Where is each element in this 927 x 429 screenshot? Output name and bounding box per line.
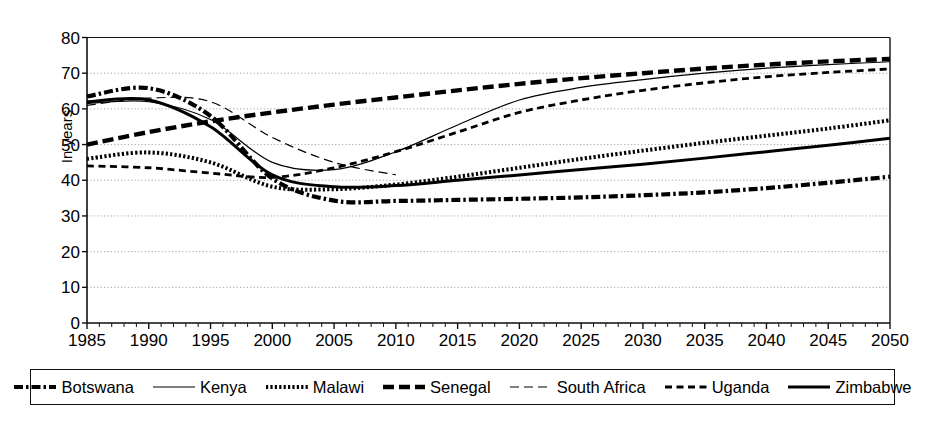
x-tick-label-2005: 2005 <box>315 332 353 349</box>
legend-item-uganda[interactable]: Uganda <box>655 379 779 396</box>
x-tick-label-2035: 2035 <box>686 332 724 349</box>
legend-item-malawi[interactable]: Malawi <box>256 379 373 396</box>
legend-label: Kenya <box>200 379 247 396</box>
x-tick-label-2050: 2050 <box>871 332 909 349</box>
dashed-thick-swatch <box>382 380 426 394</box>
legend-item-senegal[interactable]: Senegal <box>373 379 500 396</box>
x-tick-label-1990: 1990 <box>130 332 168 349</box>
legend-label: Senegal <box>430 379 491 396</box>
dashed-medium-swatch <box>664 380 708 394</box>
x-tick-label-2015: 2015 <box>439 332 477 349</box>
thick-solid-swatch <box>787 380 831 394</box>
x-tick-label-2000: 2000 <box>253 332 291 349</box>
legend-label: South Africa <box>557 379 646 396</box>
x-tick-label-2025: 2025 <box>562 332 600 349</box>
chart-legend: BotswanaKenyaMalawiSenegalSouth AfricaUg… <box>30 369 895 405</box>
x-tick-label-2020: 2020 <box>500 332 538 349</box>
line-chart: In years 01020304050607080 1985199019952… <box>0 0 927 429</box>
x-tick-label-1995: 1995 <box>192 332 230 349</box>
legend-item-kenya[interactable]: Kenya <box>143 379 256 396</box>
legend-item-south-africa[interactable]: South Africa <box>500 379 655 396</box>
legend-label: Uganda <box>712 379 770 396</box>
thin-longdash-swatch <box>509 380 553 394</box>
x-tick-label-2040: 2040 <box>748 332 786 349</box>
legend-label: Botswana <box>61 379 133 396</box>
legend-label: Zimbabwe <box>835 379 911 396</box>
x-tick-label-2010: 2010 <box>377 332 415 349</box>
x-axis-ticks: 1985199019952000200520102015202020252030… <box>0 0 927 429</box>
x-tick-label-2045: 2045 <box>809 332 847 349</box>
x-tick-label-2030: 2030 <box>624 332 662 349</box>
dotted-thick-swatch <box>265 380 309 394</box>
thin-solid-swatch <box>152 380 196 394</box>
dash-dot-thick-swatch <box>13 380 57 394</box>
legend-label: Malawi <box>313 379 364 396</box>
x-tick-label-1985: 1985 <box>68 332 106 349</box>
legend-item-botswana[interactable]: Botswana <box>4 379 142 396</box>
legend-item-zimbabwe[interactable]: Zimbabwe <box>778 379 920 396</box>
